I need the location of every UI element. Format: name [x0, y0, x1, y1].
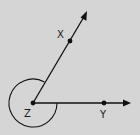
angle-diagram: X Z Y [0, 0, 140, 135]
angle-figure: X Z Y [0, 0, 140, 135]
label-y: Y [99, 109, 107, 120]
vertex-point-z [31, 101, 36, 106]
point-y [102, 101, 107, 106]
arrowhead-zx-icon [81, 11, 88, 21]
arrowhead-zy-icon [123, 100, 131, 107]
label-z: Z [24, 108, 31, 119]
label-x: X [57, 29, 64, 40]
point-x [68, 39, 73, 44]
